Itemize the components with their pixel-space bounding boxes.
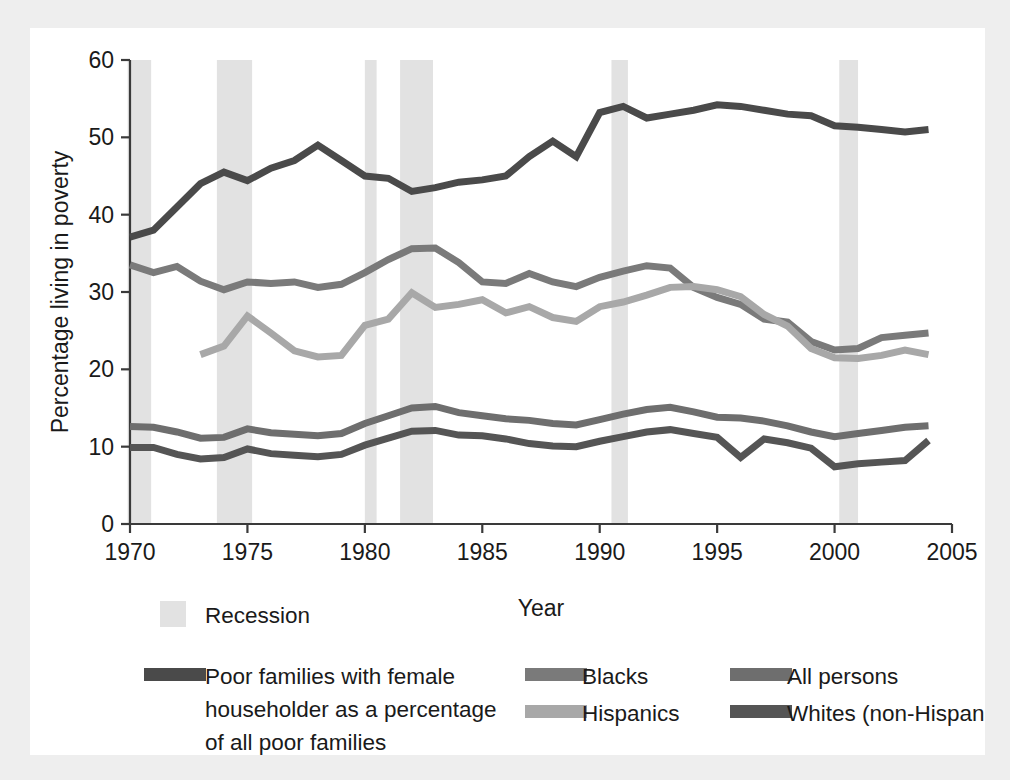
figure-card: 0102030405060197019751980198519901995200… [30, 28, 985, 755]
recession-band [365, 60, 377, 524]
legend-swatch-blacks [525, 668, 587, 681]
legend-swatch-hispanics [525, 705, 587, 718]
poverty-line-chart: 0102030405060197019751980198519901995200… [30, 28, 985, 755]
y-tick-label: 40 [88, 202, 114, 228]
recession-band [128, 60, 151, 524]
x-tick-label: 2005 [926, 539, 977, 565]
chart-svg: 0102030405060197019751980198519901995200… [30, 28, 985, 755]
x-tick-label: 1980 [339, 539, 390, 565]
legend-label-all-persons: All persons [787, 664, 898, 689]
legend-swatch-poor-families-with-female [144, 668, 206, 681]
legend-swatch-recession [160, 601, 186, 627]
y-axis-title: Percentage living in poverty [47, 150, 73, 433]
x-tick-label: 1970 [104, 539, 155, 565]
recession-band [611, 60, 627, 524]
legend-label-poor-families-with-female: Poor families with female [205, 664, 455, 689]
axes [130, 60, 952, 524]
legend-label-recession: Recession [205, 603, 310, 628]
legend-label-whites-non-hispanic: Whites (non-Hispanic) [787, 701, 985, 726]
y-tick-label: 30 [88, 279, 114, 305]
legend-label-hispanics: Hispanics [582, 701, 680, 726]
x-tick-label: 2000 [809, 539, 860, 565]
legend: RecessionPoor families with femalehouseh… [144, 601, 985, 755]
x-axis-ticks: 19701975198019851990199520002005 [104, 524, 977, 565]
x-tick-label: 1975 [222, 539, 273, 565]
y-tick-label: 10 [88, 434, 114, 460]
y-tick-label: 20 [88, 356, 114, 382]
x-tick-label: 1985 [457, 539, 508, 565]
axis-spines [130, 60, 952, 524]
legend-label-poor-families-with-female: householder as a percentage [205, 697, 496, 722]
legend-swatch-all-persons [730, 668, 792, 681]
x-axis-title: Year [518, 595, 565, 621]
y-axis-ticks: 0102030405060 [88, 47, 130, 537]
y-tick-label: 0 [101, 511, 114, 537]
y-tick-label: 60 [88, 47, 114, 73]
x-tick-label: 1990 [574, 539, 625, 565]
legend-label-poor-families-with-female: of all poor families [205, 730, 386, 755]
x-tick-label: 1995 [692, 539, 743, 565]
legend-label-blacks: Blacks [582, 664, 648, 689]
legend-swatch-whites-non-hispanic [730, 705, 792, 718]
y-tick-label: 50 [88, 124, 114, 150]
